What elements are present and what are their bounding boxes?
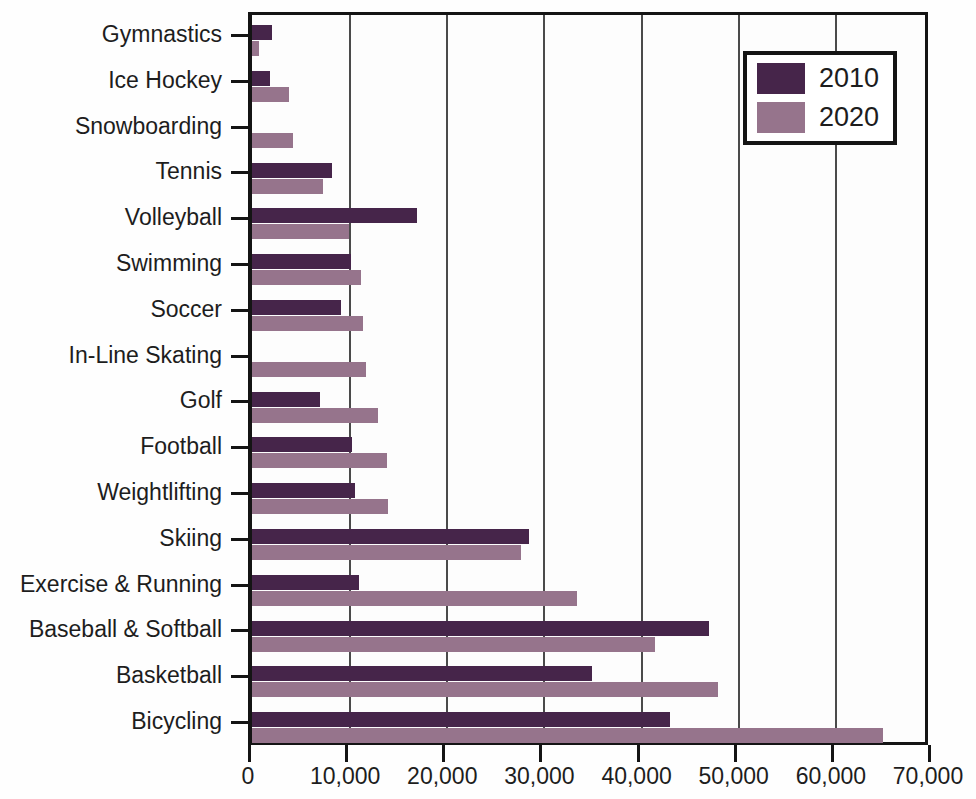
x-tick-50000: [734, 745, 737, 762]
y-tick-soccer: [231, 309, 248, 312]
y-axis-labels: GymnasticsIce HockeySnowboardingTennisVo…: [0, 0, 229, 799]
y-label-basketball: Basketball: [0, 664, 222, 687]
y-label-skiing: Skiing: [0, 527, 222, 550]
x-label-30000: 30,000: [504, 764, 574, 789]
y-tick-in-line-skating: [231, 355, 248, 358]
bar-2020-ice-hockey: [252, 87, 289, 102]
x-tick-10000: [345, 745, 348, 762]
x-axis: 010,00020,00030,00040,00050,00060,00070,…: [248, 745, 931, 799]
x-tick-70000: [928, 745, 931, 762]
bar-group: [252, 666, 925, 698]
bar-2010-soccer: [252, 300, 341, 315]
bar-chart: GymnasticsIce HockeySnowboardingTennisVo…: [0, 0, 976, 799]
x-tick-60000: [831, 745, 834, 762]
bar-2010-baseball-softball: [252, 621, 709, 636]
bar-group: [252, 392, 925, 424]
y-label-baseball-softball: Baseball & Softball: [0, 618, 222, 641]
y-tick-tennis: [231, 171, 248, 174]
y-label-soccer: Soccer: [0, 298, 222, 321]
bar-2010-tennis: [252, 163, 332, 178]
y-tick-volleyball: [231, 217, 248, 220]
y-label-tennis: Tennis: [0, 160, 222, 183]
y-label-snowboarding: Snowboarding: [0, 115, 222, 138]
bar-2010-gymnastics: [252, 25, 272, 40]
y-tick-swimming: [231, 263, 248, 266]
bar-2010-volleyball: [252, 208, 417, 223]
bar-group: [252, 163, 925, 195]
bar-group: [252, 437, 925, 469]
bar-group: [252, 254, 925, 286]
legend-item-2010[interactable]: 2010: [757, 63, 879, 94]
x-tick-40000: [637, 745, 640, 762]
y-tick-weightlifting: [231, 492, 248, 495]
y-label-weightlifting: Weightlifting: [0, 481, 222, 504]
y-label-gymnastics: Gymnastics: [0, 23, 222, 46]
bar-2020-skiing: [252, 545, 521, 560]
bar-2010-exercise-running: [252, 575, 359, 590]
x-label-70000: 70,000: [893, 764, 963, 789]
y-tick-gymnastics: [231, 34, 248, 37]
legend-item-2020[interactable]: 2020: [757, 102, 879, 133]
x-label-40000: 40,000: [601, 764, 671, 789]
y-tick-bicycling: [231, 721, 248, 724]
bar-2010-golf: [252, 392, 320, 407]
x-label-0: 0: [242, 764, 255, 789]
y-tick-snowboarding: [231, 126, 248, 129]
bar-2020-bicycling: [252, 728, 883, 743]
bar-2020-swimming: [252, 270, 361, 285]
bar-2010-skiing: [252, 529, 529, 544]
y-label-volleyball: Volleyball: [0, 206, 222, 229]
y-label-football: Football: [0, 435, 222, 458]
y-tick-ice-hockey: [231, 80, 248, 83]
legend-label-2020: 2020: [819, 104, 879, 131]
bar-2010-football: [252, 437, 352, 452]
bar-2020-soccer: [252, 316, 363, 331]
bar-2020-snowboarding: [252, 133, 293, 148]
bar-2020-in-line-skating: [252, 362, 366, 377]
y-label-golf: Golf: [0, 389, 222, 412]
y-tick-exercise-running: [231, 584, 248, 587]
x-tick-30000: [539, 745, 542, 762]
bar-2010-bicycling: [252, 712, 670, 727]
bar-2020-volleyball: [252, 224, 349, 239]
bar-2010-weightlifting: [252, 483, 355, 498]
bar-2020-gymnastics: [252, 41, 259, 56]
y-label-swimming: Swimming: [0, 252, 222, 275]
y-tick-football: [231, 446, 248, 449]
y-label-bicycling: Bicycling: [0, 710, 222, 733]
x-label-10000: 10,000: [310, 764, 380, 789]
bar-2020-tennis: [252, 179, 323, 194]
bar-2010-ice-hockey: [252, 71, 270, 86]
bar-2020-baseball-softball: [252, 637, 655, 652]
bar-2020-basketball: [252, 682, 718, 697]
y-tick-basketball: [231, 675, 248, 678]
y-tick-golf: [231, 400, 248, 403]
bar-group: [252, 300, 925, 332]
chart-legend: 20102020: [743, 51, 897, 145]
bar-group: [252, 529, 925, 561]
y-label-exercise-running: Exercise & Running: [0, 573, 222, 596]
legend-swatch-2020: [757, 102, 805, 133]
y-label-in-line-skating: In-Line Skating: [0, 344, 222, 367]
y-tick-skiing: [231, 538, 248, 541]
legend-label-2010: 2010: [819, 65, 879, 92]
x-label-20000: 20,000: [407, 764, 477, 789]
bar-group: [252, 712, 925, 744]
bar-group: [252, 346, 925, 378]
x-tick-20000: [442, 745, 445, 762]
bar-2010-basketball: [252, 666, 592, 681]
bar-2020-weightlifting: [252, 499, 388, 514]
legend-swatch-2010: [757, 63, 805, 94]
bar-group: [252, 208, 925, 240]
y-label-ice-hockey: Ice Hockey: [0, 69, 222, 92]
x-label-50000: 50,000: [699, 764, 769, 789]
bar-group: [252, 483, 925, 515]
bar-group: [252, 575, 925, 607]
x-label-60000: 60,000: [796, 764, 866, 789]
bar-2020-exercise-running: [252, 591, 577, 606]
bar-2020-football: [252, 453, 387, 468]
x-tick-0: [248, 745, 251, 762]
bar-2020-golf: [252, 408, 378, 423]
bar-group: [252, 621, 925, 653]
bar-2010-swimming: [252, 254, 351, 269]
